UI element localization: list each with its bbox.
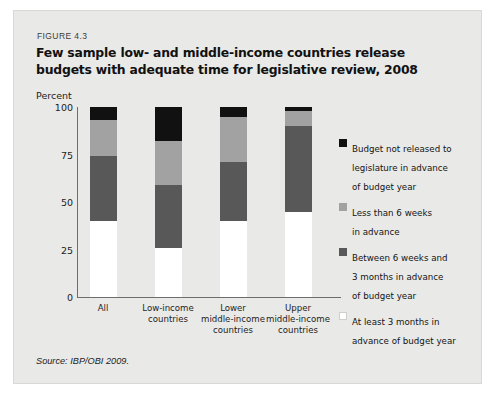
bar-segment-at-least-3-months <box>285 212 312 298</box>
source-note: Source: IBP/OBI 2009. <box>36 356 129 366</box>
y-tick-label-75: 75 <box>47 149 73 160</box>
bar-segment-at-least-3-months <box>155 248 182 297</box>
legend-swatch-icon <box>339 248 347 256</box>
y-axis-unit-label: Percent <box>36 90 72 101</box>
bar-segment-6weeks-to-3months <box>285 126 312 212</box>
x-tick-label-upper-middle-income: Uppermiddle-incomecountries <box>255 303 341 336</box>
bar-segment-6weeks-to-3months <box>155 185 182 248</box>
bar-segment-less-than-6-weeks <box>285 111 312 126</box>
bar-segment-less-than-6-weeks <box>90 120 117 156</box>
chart-legend: Budget not released tolegislature in adv… <box>339 137 479 355</box>
legend-entry-6weeks-to-3months: Between 6 weeks and3 months in advanceof… <box>339 246 479 303</box>
bar-segment-less-than-6-weeks <box>155 141 182 185</box>
bar-segment-6weeks-to-3months <box>220 162 247 221</box>
legend-label: At least 3 months inadvance of budget ye… <box>352 317 456 346</box>
bar-segment-not-released <box>220 107 247 117</box>
bar-stack <box>220 107 247 297</box>
legend-label: Between 6 weeks and3 months in advanceof… <box>352 253 448 301</box>
y-tick-label-50: 50 <box>47 197 73 208</box>
bar-stack <box>90 107 117 297</box>
bar-segment-at-least-3-months <box>220 221 247 297</box>
bar-segment-6weeks-to-3months <box>90 156 117 221</box>
legend-label: Budget not released tolegislature in adv… <box>352 144 452 192</box>
chart-plot-area: Percent 100 75 50 25 0 <box>14 11 483 385</box>
legend-entry-less-than-6-weeks: Less than 6 weeksin advance <box>339 201 479 239</box>
legend-swatch-icon <box>339 312 347 320</box>
legend-entry-not-released: Budget not released tolegislature in adv… <box>339 137 479 194</box>
legend-label: Less than 6 weeksin advance <box>352 208 432 237</box>
legend-entry-at-least-3-months: At least 3 months inadvance of budget ye… <box>339 310 479 348</box>
bar-stack <box>285 107 312 297</box>
y-tick-label-25: 25 <box>47 244 73 255</box>
figure-card: FIGURE 4.3 Few sample low- and middle-in… <box>13 10 482 384</box>
y-axis-line <box>77 107 78 297</box>
legend-swatch-icon <box>339 139 347 147</box>
bar-segment-not-released <box>155 107 182 141</box>
bar-segment-at-least-3-months <box>90 221 117 297</box>
bar-stack <box>155 107 182 297</box>
bar-segment-not-released <box>90 107 117 120</box>
y-tick-label-0: 0 <box>47 292 73 303</box>
bar-segment-less-than-6-weeks <box>220 117 247 163</box>
legend-swatch-icon <box>339 203 347 211</box>
y-tick-label-100: 100 <box>47 102 73 113</box>
